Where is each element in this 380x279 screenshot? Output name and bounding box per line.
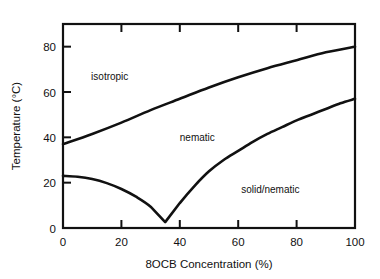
x-tick-label-60: 60 bbox=[232, 236, 245, 248]
region-label-nematic: nematic bbox=[180, 132, 215, 143]
x-tick-label-80: 80 bbox=[290, 236, 303, 248]
x-axis-title: 8OCB Concentration (%) bbox=[145, 258, 272, 270]
y-tick-label-0: 0 bbox=[50, 223, 56, 235]
x-axis-tick-labels: 020406080100 bbox=[60, 236, 365, 248]
plot-frame bbox=[63, 24, 355, 228]
x-tick-label-20: 20 bbox=[115, 236, 128, 248]
region-label-solid-nematic: solid/nematic bbox=[241, 184, 299, 195]
y-tick-label-20: 20 bbox=[43, 177, 56, 189]
y-axis-title: Temperature (°C) bbox=[10, 82, 22, 170]
x-axis-ticks bbox=[63, 24, 355, 228]
y-tick-label-40: 40 bbox=[43, 132, 56, 144]
region-label-isotropic: isotropic bbox=[91, 71, 128, 82]
x-tick-label-100: 100 bbox=[345, 236, 364, 248]
y-tick-label-60: 60 bbox=[43, 87, 56, 99]
y-axis-ticks bbox=[63, 47, 71, 228]
y-axis-tick-labels: 020406080 bbox=[43, 41, 56, 234]
plot-border bbox=[63, 24, 355, 228]
phase-diagram-chart: 020406080 020406080100 isotropicnematics… bbox=[0, 0, 380, 279]
curve-nematic-isotropic bbox=[63, 47, 355, 144]
x-tick-label-40: 40 bbox=[173, 236, 186, 248]
y-tick-label-80: 80 bbox=[43, 41, 56, 53]
x-tick-label-0: 0 bbox=[60, 236, 66, 248]
curve-solidus-eutectic bbox=[63, 99, 355, 222]
